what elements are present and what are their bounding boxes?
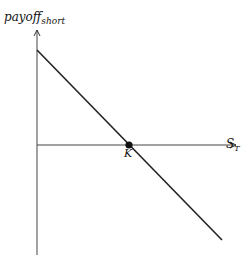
strike-label: K — [124, 147, 132, 160]
x-axis-label: ST — [226, 137, 240, 153]
payoff-chart — [0, 0, 252, 269]
y-axis-label: payoffshort — [4, 10, 65, 26]
